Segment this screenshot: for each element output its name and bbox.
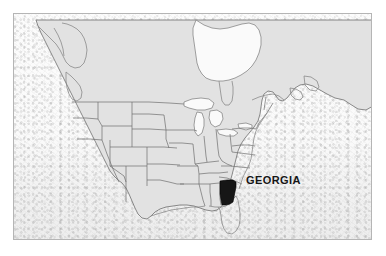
border-vermont-newhampshire (264, 97, 266, 110)
border-newengland-interior (267, 103, 273, 113)
locator-map-figure: GEORGIA (0, 0, 386, 256)
highlighted-state-georgia (220, 180, 236, 205)
north-america-map (14, 14, 372, 240)
lake-michigan (194, 112, 204, 136)
map-frame: GEORGIA (13, 13, 372, 240)
georgia-state-label: GEORGIA (246, 174, 301, 186)
